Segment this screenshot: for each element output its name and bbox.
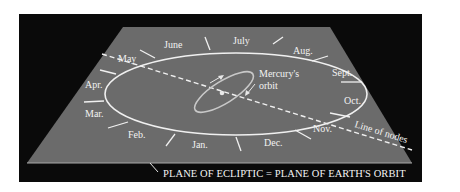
- month-label-may: May: [118, 53, 136, 64]
- month-label-nov: Nov.: [313, 123, 332, 134]
- ecliptic-diagram: May June July Aug. Sept. Oct. Nov. Dec. …: [0, 0, 460, 192]
- month-label-apr: Apr.: [85, 79, 103, 90]
- month-label-june: June: [164, 39, 183, 50]
- mercury-orbit-label-line1: Mercury's: [259, 68, 299, 79]
- sun-icon: [220, 91, 225, 96]
- month-label-jan: Jan.: [192, 139, 208, 150]
- month-label-dec: Dec.: [264, 137, 283, 148]
- month-label-oct: Oct.: [344, 95, 361, 106]
- month-label-aug: Aug.: [293, 45, 313, 56]
- mercury-orbit-label-line2: orbit: [259, 80, 278, 91]
- month-label-feb: Feb.: [128, 129, 146, 140]
- month-label-mar: Mar.: [85, 108, 104, 119]
- month-label-sept: Sept.: [332, 67, 352, 78]
- caption: PLANE OF ECLIPTIC = PLANE OF EARTH'S ORB…: [163, 168, 406, 179]
- month-label-july: July: [233, 35, 250, 46]
